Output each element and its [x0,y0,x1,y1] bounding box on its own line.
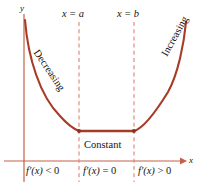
derivative-positive-function: f′(x) [138,165,155,176]
constant-annotation: Constant [84,140,121,151]
x-equals-b-label: x = b [117,9,139,20]
x-equals-a-value: a [79,8,84,19]
x-equals-b-operator: = [125,8,131,19]
x-equals-b-variable: x [117,8,122,19]
x-axis [4,158,187,165]
x-equals-a-label: x = a [62,9,84,20]
derivative-cell-negative: f′(x) < 0 [26,166,59,177]
x-equals-b-value: b [134,8,139,19]
derivative-cell-positive: f′(x) > 0 [138,166,171,177]
corner-marker-left [77,129,81,133]
corner-marker-right [132,129,136,133]
y-axis-label: y [20,4,24,13]
derivative-negative-function: f′(x) [26,165,43,176]
x-axis-label: x [189,156,193,165]
derivative-negative-relation: < 0 [46,165,60,176]
x-equals-a-operator: = [70,8,76,19]
derivative-cell-zero: f′(x) = 0 [83,166,116,177]
x-axis-arrowhead [180,158,187,165]
derivative-zero-function: f′(x) [83,165,100,176]
derivative-sign-figure: y x x = a x = b Decreasing Increasing Co… [0,0,204,194]
derivative-zero-relation: = 0 [103,165,117,176]
x-equals-a-variable: x [62,8,67,19]
derivative-positive-relation: > 0 [158,165,172,176]
